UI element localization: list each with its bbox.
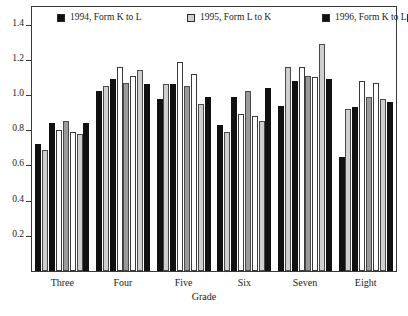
bar [191, 74, 197, 271]
legend-label: 1996, Form K to L [335, 12, 407, 23]
bar [265, 88, 271, 271]
y-tick-mark [26, 95, 31, 96]
x-axis-title: Grade [0, 291, 408, 303]
bar [238, 114, 244, 271]
bar [163, 84, 169, 271]
bar [245, 91, 251, 271]
bar-group [214, 7, 275, 271]
bar [231, 97, 237, 271]
bar [110, 79, 116, 271]
legend-item: 1996, Form K to L [322, 10, 407, 25]
y-tick-mark [26, 25, 31, 26]
bar [278, 106, 284, 271]
x-tick-label: Three [32, 277, 93, 289]
y-tick-label: 0.8 [12, 123, 24, 133]
bar [352, 107, 358, 271]
bar [224, 132, 230, 271]
y-axis-tick: 0.8 [0, 130, 31, 131]
y-tick-mark [26, 60, 31, 61]
bar [117, 67, 123, 271]
legend-label: 1995, Form L to K [200, 12, 271, 23]
bar [184, 86, 190, 271]
y-tick-mark [26, 130, 31, 131]
y-tick-label: 1.4 [12, 18, 24, 28]
x-tick-label: Six [214, 277, 275, 289]
bar [319, 44, 325, 271]
bar [83, 123, 89, 271]
y-axis-tick: 0.6 [0, 165, 31, 166]
bar [312, 77, 318, 271]
legend: 1994, Form K to L1995, Form L to K1996, … [57, 10, 322, 25]
legend-swatch-icon [322, 14, 330, 22]
bar-group [335, 7, 396, 271]
bars-layer [32, 7, 396, 271]
bar [305, 76, 311, 271]
bar [259, 121, 265, 271]
bar [217, 125, 223, 271]
bar [144, 84, 150, 271]
bar [292, 81, 298, 271]
y-tick-mark [26, 201, 31, 202]
bar [205, 97, 211, 271]
bar [35, 144, 41, 271]
bar-group [275, 7, 336, 271]
bar [77, 134, 83, 271]
x-tick-label: Five [153, 277, 214, 289]
bar [339, 157, 345, 271]
y-tick-mark [26, 236, 31, 237]
y-tick-label: 1.0 [12, 88, 24, 98]
x-tick-label: Four [93, 277, 154, 289]
bar [373, 83, 379, 271]
bar [103, 86, 109, 271]
y-tick-label: 0.4 [12, 194, 24, 204]
legend-item: 1995, Form L to K [187, 10, 322, 25]
bar [299, 67, 305, 271]
bar [56, 130, 62, 271]
bar [170, 84, 176, 271]
y-axis-tick: 1.2 [0, 60, 31, 61]
legend-item: 1994, Form K to L [57, 10, 187, 25]
legend-swatch-icon [187, 14, 195, 22]
bar [123, 83, 129, 271]
y-tick-label: 1.2 [12, 53, 24, 63]
y-axis-tick: 0.4 [0, 201, 31, 202]
bar [49, 123, 55, 271]
bar [198, 104, 204, 271]
bar [387, 102, 393, 271]
x-tick-label: Eight [335, 277, 396, 289]
bar [252, 116, 258, 271]
y-tick-mark [26, 165, 31, 166]
bar [157, 99, 163, 271]
x-tick-label: Seven [275, 277, 336, 289]
legend-label: 1994, Form K to L [70, 12, 142, 23]
bar [96, 91, 102, 271]
y-axis-tick: 1.4 [0, 25, 31, 26]
bar-group [93, 7, 154, 271]
bar [285, 67, 291, 271]
bar [326, 79, 332, 271]
bar [177, 62, 183, 271]
bar [380, 99, 386, 271]
bar-group [153, 7, 214, 271]
bar [359, 81, 365, 271]
bar [42, 150, 48, 271]
y-tick-label: 0.2 [12, 229, 24, 239]
bar [130, 76, 136, 271]
y-tick-label: 0.6 [12, 158, 24, 168]
bar-chart: 0.20.40.60.81.01.21.4 ThreeFourFiveSixSe… [0, 0, 408, 316]
bar [63, 121, 69, 271]
bar [70, 132, 76, 271]
bar [345, 109, 351, 271]
bar [137, 70, 143, 271]
y-axis-tick: 0.2 [0, 236, 31, 237]
legend-swatch-icon [57, 14, 65, 22]
y-axis-tick: 1.0 [0, 95, 31, 96]
bar-group [32, 7, 93, 271]
bar [366, 97, 372, 271]
